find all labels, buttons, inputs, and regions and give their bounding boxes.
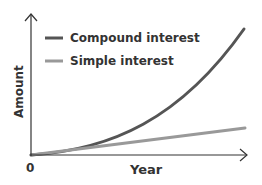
y-axis-label: Amount — [12, 65, 26, 118]
interest-chart: Compound interest Simple interest Amount… — [0, 0, 262, 185]
x-axis-label: Year — [129, 162, 163, 177]
compound-interest-line — [31, 29, 244, 155]
legend-label-compound: Compound interest — [70, 31, 200, 45]
origin-label: 0 — [26, 161, 34, 175]
simple-interest-line — [31, 128, 245, 155]
legend-label-simple: Simple interest — [70, 54, 174, 68]
